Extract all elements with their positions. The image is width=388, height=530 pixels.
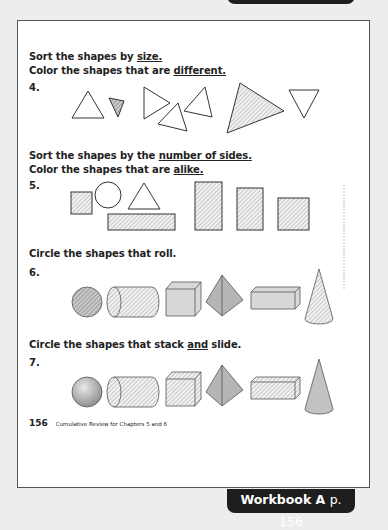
rectangular-prism [251,287,300,309]
q7-solids [72,359,333,414]
workbook-label: Workbook A [240,492,325,507]
cube [166,372,201,406]
large-triangle-shaded [227,83,284,133]
pyramid [206,275,243,316]
square-shaded-1 [71,192,92,214]
sphere [72,377,102,407]
tall-rectangle-shaded [195,182,222,230]
square-shaded-2 [278,198,309,230]
footer-text: Cumulative Review for Chapters 5 and 6 [56,421,167,427]
circle [95,182,121,208]
cone [305,269,333,324]
pyramid [206,365,243,406]
small-triangle-shaded [109,98,124,117]
page-number: 156 [29,418,48,428]
triangle-inverted [289,90,319,118]
q6-solids [72,269,333,324]
rectangle-shaded [237,188,263,230]
rectangular-prism [251,377,300,399]
workbook-page-tab: Workbook A p. 156 [227,489,355,513]
page-footer: 156Cumulative Review for Chapters 5 and … [29,418,167,428]
triangle-5 [184,87,212,117]
triangle-3 [144,87,170,119]
cube [166,282,201,316]
triangle-1 [72,91,104,118]
cone [305,359,333,414]
sphere [72,287,102,317]
triangle [128,183,160,209]
rectangle-shaded-wide [108,214,175,230]
